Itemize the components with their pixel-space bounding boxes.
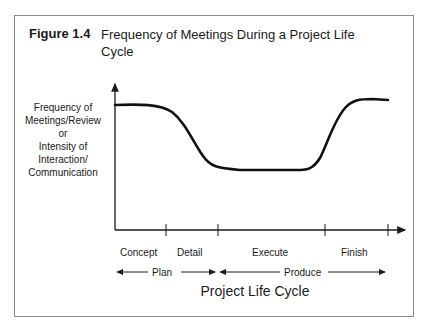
frequency-curve	[115, 99, 388, 170]
arrowhead-icon	[219, 269, 226, 275]
group-plan: Plan	[150, 267, 174, 278]
phase-concept: Concept	[120, 247, 157, 258]
phase-finish: Finish	[341, 247, 368, 258]
x-axis-label: Project Life Cycle	[0, 283, 430, 299]
phase-detail: Detail	[177, 247, 203, 258]
group-produce: Produce	[282, 267, 323, 278]
phase-execute: Execute	[252, 247, 288, 258]
arrowhead-icon	[116, 269, 123, 275]
